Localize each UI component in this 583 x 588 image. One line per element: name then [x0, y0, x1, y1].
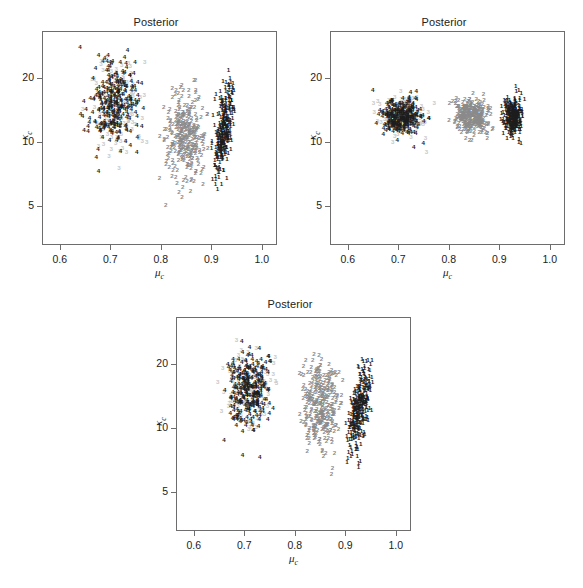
svg-text:4: 4 [241, 427, 245, 434]
svg-text:4: 4 [119, 113, 123, 120]
x-tick-label: 0.9 [482, 253, 516, 265]
svg-text:2: 2 [163, 125, 167, 132]
svg-text:2: 2 [312, 350, 316, 357]
y-axis-title-symbol: κ [18, 135, 30, 140]
svg-text:4: 4 [397, 108, 401, 115]
svg-text:4: 4 [237, 363, 241, 370]
plot-frame: 3333333333333333333333333333333333333333… [176, 317, 411, 531]
svg-text:2: 2 [485, 109, 489, 116]
svg-text:2: 2 [323, 405, 327, 412]
svg-text:4: 4 [226, 360, 230, 367]
svg-text:2: 2 [306, 368, 310, 375]
scatter-series-4: 4444444444444444444444444444444444444444… [222, 337, 275, 460]
x-tick-label: 0.6 [177, 539, 211, 551]
svg-text:1: 1 [215, 153, 219, 160]
svg-text:2: 2 [473, 106, 477, 113]
svg-text:2: 2 [308, 412, 312, 419]
x-tick-label: 0.7 [93, 253, 127, 265]
svg-text:4: 4 [401, 103, 405, 110]
svg-text:4: 4 [116, 105, 120, 112]
svg-text:2: 2 [317, 370, 321, 377]
svg-text:2: 2 [195, 114, 199, 121]
svg-text:4: 4 [237, 409, 241, 416]
svg-text:1: 1 [367, 377, 371, 384]
svg-text:2: 2 [319, 399, 323, 406]
svg-text:2: 2 [333, 391, 337, 398]
svg-text:4: 4 [86, 122, 90, 129]
svg-text:4: 4 [105, 66, 109, 73]
svg-text:2: 2 [180, 193, 184, 200]
posterior-panel-top-right: Posterior 333333333333333333333333333333… [310, 14, 578, 290]
svg-text:4: 4 [131, 100, 135, 107]
svg-text:2: 2 [158, 132, 162, 139]
svg-text:4: 4 [125, 108, 129, 115]
x-tick-mark [345, 531, 346, 536]
svg-text:4: 4 [107, 101, 111, 108]
svg-text:4: 4 [234, 383, 238, 390]
svg-text:4: 4 [417, 120, 421, 127]
svg-text:4: 4 [390, 97, 394, 104]
scatter-series-4: 4444444444444444444444444444444444444444… [78, 43, 145, 175]
svg-text:1: 1 [221, 166, 225, 173]
svg-text:4: 4 [266, 368, 270, 375]
posterior-panel-bottom-center: Posterior 333333333333333333333333333333… [156, 296, 424, 580]
svg-text:1: 1 [505, 112, 509, 119]
svg-text:3: 3 [220, 407, 224, 414]
svg-text:2: 2 [196, 133, 200, 140]
svg-text:4: 4 [135, 121, 139, 128]
svg-text:4: 4 [246, 363, 250, 370]
svg-text:3: 3 [140, 137, 144, 144]
svg-text:4: 4 [237, 355, 241, 362]
svg-text:2: 2 [165, 157, 169, 164]
svg-text:2: 2 [199, 113, 203, 120]
svg-text:4: 4 [392, 120, 396, 127]
svg-text:1: 1 [360, 355, 364, 362]
x-tick-mark [396, 531, 397, 536]
svg-text:1: 1 [211, 111, 215, 118]
svg-text:2: 2 [177, 101, 181, 108]
svg-text:4: 4 [237, 375, 241, 382]
svg-text:2: 2 [195, 144, 199, 151]
svg-text:1: 1 [227, 66, 231, 73]
svg-text:2: 2 [188, 109, 192, 116]
svg-text:4: 4 [129, 141, 133, 148]
svg-text:2: 2 [183, 150, 187, 157]
svg-text:2: 2 [472, 127, 476, 134]
x-axis: 0.60.70.80.91.0 [176, 531, 411, 545]
svg-text:2: 2 [298, 369, 302, 376]
svg-text:4: 4 [249, 418, 253, 425]
svg-text:1: 1 [214, 180, 218, 187]
svg-text:1: 1 [517, 138, 521, 145]
svg-text:2: 2 [333, 383, 337, 390]
svg-text:2: 2 [170, 128, 174, 135]
svg-text:3: 3 [140, 114, 144, 121]
x-tick-mark [449, 245, 450, 250]
svg-text:2: 2 [324, 449, 328, 456]
svg-text:2: 2 [193, 126, 197, 133]
svg-text:2: 2 [326, 384, 330, 391]
svg-text:2: 2 [331, 464, 335, 471]
svg-text:4: 4 [222, 436, 226, 443]
svg-text:4: 4 [116, 78, 120, 85]
svg-text:4: 4 [116, 87, 120, 94]
svg-text:2: 2 [318, 409, 322, 416]
x-tick-mark [499, 245, 500, 250]
svg-text:2: 2 [330, 470, 334, 477]
svg-text:3: 3 [235, 336, 239, 343]
x-tick-mark [295, 531, 296, 536]
y-tick-mark [37, 78, 42, 79]
x-axis-title: μc [330, 266, 565, 281]
svg-text:2: 2 [196, 122, 200, 129]
svg-text:2: 2 [180, 92, 184, 99]
svg-text:1: 1 [227, 92, 231, 99]
svg-text:3: 3 [372, 99, 376, 106]
x-axis-title-subscript: c [294, 558, 298, 567]
scatter-points: 3333333333333333333333333333333333333333… [177, 318, 410, 530]
svg-text:2: 2 [308, 379, 312, 386]
y-tick-mark [171, 428, 176, 429]
svg-text:1: 1 [366, 356, 370, 363]
y-axis-title-symbol: κ [152, 421, 164, 426]
svg-text:2: 2 [341, 376, 345, 383]
svg-text:2: 2 [333, 406, 337, 413]
svg-text:4: 4 [101, 133, 105, 140]
